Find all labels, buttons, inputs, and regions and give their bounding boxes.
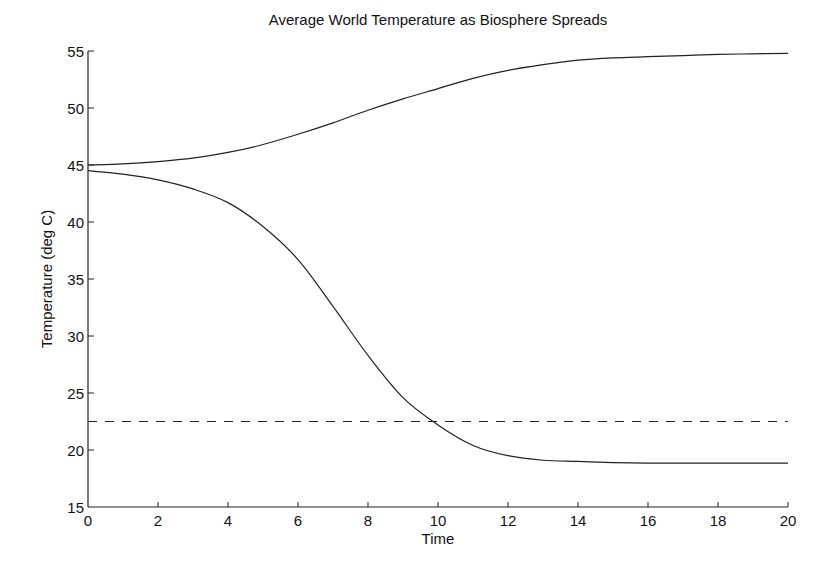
x-tick-label: 20 — [780, 512, 797, 529]
series-upper-line — [88, 53, 788, 165]
y-tick-label: 30 — [67, 328, 84, 345]
series-lower-line — [88, 171, 788, 463]
x-tick-label: 2 — [154, 512, 162, 529]
x-tick-label: 10 — [430, 512, 447, 529]
y-tick-label: 40 — [67, 214, 84, 231]
x-tick-label: 16 — [640, 512, 657, 529]
x-tick-label: 4 — [224, 512, 232, 529]
x-tick-label: 14 — [570, 512, 587, 529]
y-tick-label: 50 — [67, 100, 84, 117]
y-tick-label: 55 — [67, 43, 84, 60]
chart-title: Average World Temperature as Biosphere S… — [269, 11, 608, 28]
x-tick-label: 12 — [500, 512, 517, 529]
y-tick-label: 15 — [67, 499, 84, 516]
y-tick-label: 35 — [67, 271, 84, 288]
y-axis-label: Temperature (deg C) — [38, 210, 55, 348]
y-tick-label: 25 — [67, 385, 84, 402]
y-axis-ticks: 152025303540455055 — [67, 43, 94, 516]
y-tick-label: 45 — [67, 157, 84, 174]
x-axis-ticks: 02468101214161820 — [84, 502, 797, 529]
series-layer — [88, 53, 788, 463]
x-axis-label: Time — [422, 530, 455, 547]
x-tick-label: 18 — [710, 512, 727, 529]
x-tick-label: 6 — [294, 512, 302, 529]
y-tick-label: 20 — [67, 442, 84, 459]
x-tick-label: 0 — [84, 512, 92, 529]
line-chart: Average World Temperature as Biosphere S… — [0, 0, 838, 574]
plot-area: 02468101214161820 152025303540455055 — [67, 43, 796, 529]
x-tick-label: 8 — [364, 512, 372, 529]
